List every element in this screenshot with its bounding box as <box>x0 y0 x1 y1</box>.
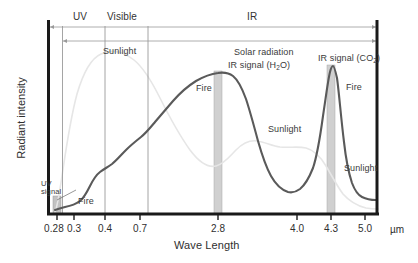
annotation-uv-signal: UV signal <box>41 180 61 196</box>
annotation-ir-signal-h2o: IR signal (H2O) <box>228 60 290 73</box>
annotation-solar-radiation: Solar radiation <box>234 47 294 57</box>
spectral-radiant-intensity-chart: Radiant intensity UV Visible IR Sunlight… <box>0 0 418 263</box>
ir-co2-text-pre: IR signal (CO <box>318 53 373 63</box>
annotation-sunlight-visible: Sunlight <box>103 46 136 56</box>
band-label-ir: IR <box>247 12 257 22</box>
ir-h2o-text-pre: IR signal (H <box>228 60 276 70</box>
x-tick-label-5.0: 5.0 <box>358 224 372 234</box>
ir-signal-h2o-band <box>214 71 222 214</box>
x-tick-label-4.0: 4.0 <box>290 224 304 234</box>
annotation-sunlight-ir-right: Sunlight <box>344 163 377 173</box>
annotation-fire-left: Fire <box>78 196 94 206</box>
annotation-fire-h2o: Fire <box>196 83 212 93</box>
x-tick-label-0.4: 0.4 <box>98 224 112 234</box>
band-label-uv: UV <box>73 12 87 22</box>
band-label-visible: Visible <box>107 12 137 22</box>
ir-h2o-text-post: O) <box>280 60 290 70</box>
x-tick-label-0.3: 0.3 <box>67 224 81 234</box>
annotation-ir-signal-co2: IR signal (CO2) <box>318 53 380 66</box>
x-tick-label-4.3: 4.3 <box>324 224 338 234</box>
x-tick-label-0.28: 0.28 <box>44 224 64 234</box>
uv-signal-line-2: signal <box>41 188 61 196</box>
x-axis-title: Wave Length <box>174 240 240 250</box>
ir-co2-text-post: ) <box>377 53 380 63</box>
annotation-fire-co2: Fire <box>346 82 362 92</box>
x-tick-label-0.7: 0.7 <box>133 224 147 234</box>
x-axis-unit: µm <box>390 225 404 235</box>
x-tick-label-2.8: 2.8 <box>211 224 225 234</box>
annotation-sunlight-ir-mid: Sunlight <box>268 124 301 134</box>
y-axis-title: Radiant intensity <box>15 53 27 183</box>
